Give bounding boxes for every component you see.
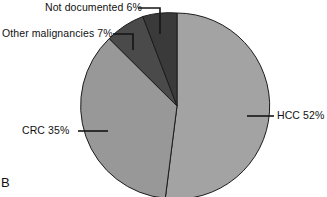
pie-label-crc: CRC 35% — [22, 125, 69, 136]
pie-slice-hcc[interactable] — [165, 13, 269, 197]
pie-label-not-documented: Not documented 6% — [45, 2, 142, 13]
pie-label-hcc: HCC 52% — [277, 110, 324, 121]
panel-letter: B — [1, 176, 10, 189]
pie-label-other-malignancies: Other malignancies 7% — [2, 28, 113, 39]
figure-panel: Not documented 6% Other malignancies 7% … — [0, 0, 327, 197]
